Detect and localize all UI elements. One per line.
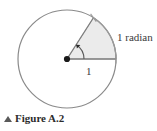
- arc-label: 1 radian: [117, 31, 153, 43]
- center-dot: [64, 56, 70, 62]
- figure-container: 1 radian 1 Figure A.2: [0, 0, 157, 131]
- triangle-marker-icon: [4, 116, 12, 122]
- sector-shaded-region: [67, 18, 116, 59]
- figure-caption: Figure A.2: [4, 113, 64, 124]
- radius-label: 1: [86, 65, 92, 77]
- figure-caption-label: Figure A.2: [15, 113, 64, 124]
